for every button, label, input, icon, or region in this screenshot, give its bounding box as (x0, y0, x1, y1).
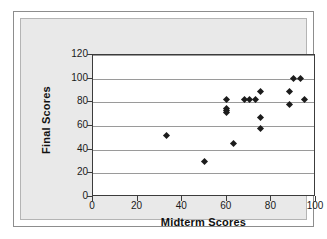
x-tick-mark-100 (315, 196, 316, 201)
x-tick-mark-80 (270, 196, 271, 201)
x-tick-label-100: 100 (295, 200, 327, 211)
plot-area (92, 54, 315, 196)
y-axis-tick-labels: 020406080100120 (50, 54, 88, 196)
x-axis-tick-labels: 020406080100 (92, 200, 315, 216)
y-tick-label-100: 100 (54, 73, 88, 83)
y-tick-mark-40 (87, 149, 92, 150)
x-tick-mark-20 (137, 196, 138, 201)
gridline-y-60 (93, 126, 314, 127)
x-tick-mark-0 (92, 196, 93, 201)
x-tick-label-0: 0 (72, 200, 112, 211)
y-tick-label-40: 40 (54, 144, 88, 154)
data-point (286, 88, 293, 95)
x-tick-mark-60 (226, 196, 227, 201)
y-tick-label-120: 120 (54, 49, 88, 59)
data-point (201, 158, 208, 165)
data-point (257, 88, 264, 95)
scatter-plot-figure: Final Scores 020406080100120 02040608010… (0, 0, 327, 239)
data-point (230, 140, 237, 147)
x-tick-label-20: 20 (117, 200, 157, 211)
y-tick-mark-80 (87, 101, 92, 102)
x-tick-label-60: 60 (206, 200, 246, 211)
y-tick-mark-20 (87, 172, 92, 173)
data-point (163, 132, 170, 139)
y-tick-mark-60 (87, 125, 92, 126)
data-point (297, 75, 304, 82)
x-tick-mark-40 (181, 196, 182, 201)
y-tick-label-80: 80 (54, 96, 88, 106)
y-tick-label-60: 60 (54, 120, 88, 130)
data-point (257, 114, 264, 121)
gridline-y-20 (93, 173, 314, 174)
gridline-y-120 (93, 55, 314, 56)
x-tick-label-40: 40 (161, 200, 201, 211)
y-tick-mark-100 (87, 78, 92, 79)
x-axis-label: Midterm Scores (92, 216, 315, 228)
y-tick-mark-120 (87, 54, 92, 55)
y-tick-label-20: 20 (54, 167, 88, 177)
gridline-y-80 (93, 102, 314, 103)
figure-panel: Final Scores 020406080100120 02040608010… (20, 18, 307, 220)
data-point (286, 101, 293, 108)
x-tick-label-80: 80 (250, 200, 290, 211)
gridline-y-100 (93, 79, 314, 80)
gridline-y-40 (93, 150, 314, 151)
